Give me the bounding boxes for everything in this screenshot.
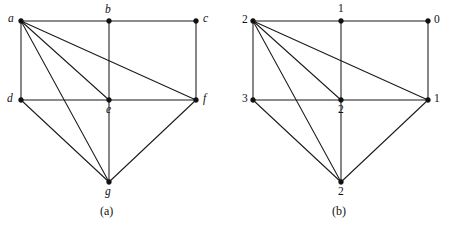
graph-edge <box>109 100 196 182</box>
graph-vertex <box>19 98 24 103</box>
graph-vertex <box>194 19 199 24</box>
graph-edge <box>21 100 109 182</box>
graph-edge <box>341 100 428 182</box>
vertex-label: 2 <box>242 14 248 26</box>
graph-edge <box>253 100 341 182</box>
graph-vertex <box>194 98 199 103</box>
vertex-label: d <box>7 93 13 105</box>
vertex-label: e <box>106 104 111 116</box>
graph-vertex <box>339 98 344 103</box>
panel-caption: (a) <box>100 205 113 217</box>
graph-edge <box>253 21 341 100</box>
graph-edge <box>253 21 341 182</box>
panel-a <box>19 19 199 185</box>
graph-vertex <box>339 19 344 24</box>
vertex-label: g <box>105 186 111 198</box>
graph-vertex <box>426 19 431 24</box>
vertex-label: c <box>203 13 208 25</box>
graph-vertex <box>19 19 24 24</box>
vertex-label: 3 <box>242 93 248 105</box>
graph-vertex <box>107 19 112 24</box>
figure-container: abcdefg(a)2103212(b) <box>0 0 464 228</box>
graph-vertex <box>339 180 344 185</box>
vertex-label: 1 <box>434 93 440 105</box>
graph-edge <box>21 21 109 182</box>
vertex-label: f <box>203 93 206 105</box>
graph-edge <box>21 21 109 100</box>
graph-vertex <box>251 98 256 103</box>
vertex-label: a <box>8 13 14 25</box>
graph-vertex <box>426 98 431 103</box>
panel-caption: (b) <box>332 205 346 217</box>
vertex-label: 0 <box>434 14 440 26</box>
graph-figure <box>0 0 464 228</box>
panel-b <box>251 19 431 185</box>
vertex-label: 1 <box>338 3 344 15</box>
vertex-label: 2 <box>338 186 344 198</box>
graph-vertex <box>107 98 112 103</box>
graph-vertex <box>107 180 112 185</box>
vertex-label: 2 <box>338 104 344 116</box>
vertex-label: b <box>105 4 111 16</box>
graph-vertex <box>251 19 256 24</box>
